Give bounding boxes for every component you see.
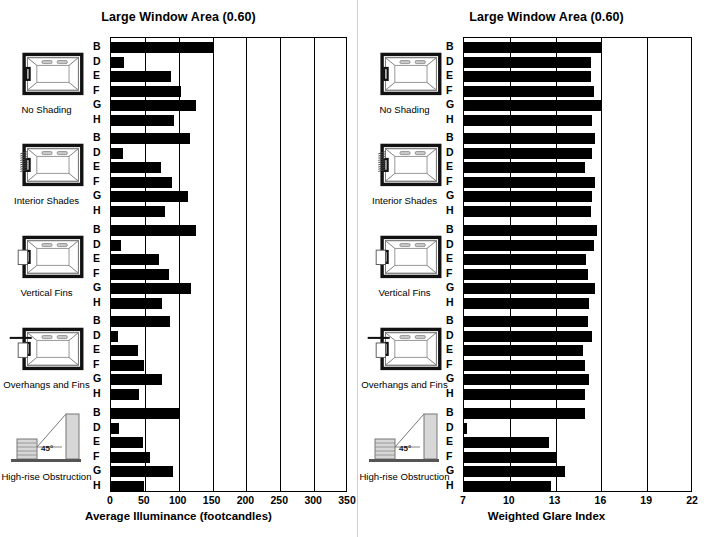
bar	[111, 437, 143, 448]
bar	[464, 298, 589, 309]
bar	[111, 466, 173, 477]
category-label: F	[446, 451, 452, 462]
bar	[111, 269, 169, 280]
bar	[464, 254, 586, 265]
bar	[464, 240, 594, 251]
bar	[464, 71, 591, 82]
category-label: G	[93, 190, 101, 201]
shading-group-room-interior-shades: Interior Shades	[0, 136, 93, 206]
shading-group-room-vertical-fins: Vertical Fins	[0, 228, 93, 298]
category-label: G	[93, 373, 101, 384]
bar	[111, 360, 144, 371]
shading-group-caption: Overhangs and Fins	[0, 379, 93, 390]
category-label: B	[93, 407, 101, 418]
category-label: H	[93, 114, 101, 125]
bar	[464, 191, 592, 202]
shading-group-caption: No Shading	[358, 104, 451, 115]
gridline	[314, 38, 315, 491]
bar	[111, 331, 118, 342]
x-axis-label-illuminance: Average Illuminance (footcandles)	[0, 510, 357, 522]
shading-group-room-overhangs-and-fins: Overhangs and Fins	[0, 320, 93, 390]
category-label: H	[93, 388, 101, 399]
x-tick-label: 350	[338, 494, 356, 506]
category-label: D	[446, 330, 454, 341]
x-tick-label: 0	[107, 494, 113, 506]
bar	[111, 71, 171, 82]
category-label: F	[93, 85, 99, 96]
bar	[464, 466, 565, 477]
bar	[464, 177, 595, 188]
svg-text:45°: 45°	[41, 444, 53, 453]
category-label: D	[446, 147, 454, 158]
category-label: E	[446, 344, 453, 355]
bar	[464, 133, 595, 144]
high-rise-obstruction-icon: 45°	[366, 412, 444, 469]
bar	[464, 408, 585, 419]
category-label: D	[446, 422, 454, 433]
category-label: E	[446, 253, 453, 264]
bar	[111, 177, 172, 188]
gridline	[280, 38, 281, 491]
category-label: E	[93, 70, 100, 81]
category-label: G	[446, 99, 454, 110]
gridline	[246, 38, 247, 491]
plot-area-illuminance	[110, 37, 347, 492]
category-label: H	[446, 297, 454, 308]
category-label: G	[93, 282, 101, 293]
x-axis-ticks-glare: 71013161922	[463, 494, 692, 510]
gridline	[213, 38, 214, 491]
category-label: H	[446, 205, 454, 216]
bar	[464, 86, 594, 97]
bar	[464, 481, 551, 492]
x-tick-label: 200	[237, 494, 255, 506]
plot-area-glare	[463, 37, 692, 492]
category-label: F	[446, 268, 452, 279]
bar	[464, 360, 585, 371]
bar	[464, 206, 591, 217]
x-tick-label: 300	[304, 494, 322, 506]
category-label: G	[446, 373, 454, 384]
x-tick-label: 10	[503, 494, 515, 506]
bar	[111, 389, 139, 400]
room-vertical-fins-icon	[366, 228, 444, 285]
shading-group-caption: Vertical Fins	[358, 287, 451, 298]
bar	[111, 345, 138, 356]
bar	[111, 42, 213, 53]
bars-glare	[464, 38, 691, 491]
chart-title-right: Large Window Area (0.60)	[368, 10, 715, 24]
shading-group-caption: High-rise Obstruction	[358, 471, 451, 482]
shading-group-caption: Overhangs and Fins	[358, 379, 451, 390]
category-label: F	[446, 85, 452, 96]
shading-group-high-rise-obstruction: 45° High-rise Obstruction	[358, 412, 451, 482]
bar	[111, 452, 150, 463]
category-label: D	[93, 147, 101, 158]
shading-group-room-vertical-fins: Vertical Fins	[358, 228, 451, 298]
shading-group-room-no-shading: No Shading	[0, 45, 93, 115]
category-label: F	[93, 268, 99, 279]
bar	[111, 86, 181, 97]
x-axis-ticks-illuminance: 050100150200250300350	[110, 494, 347, 510]
room-interior-shades-icon	[8, 136, 86, 193]
category-label: F	[93, 359, 99, 370]
shading-group-caption: Interior Shades	[358, 195, 451, 206]
panel-illuminance: Large Window Area (0.60) No Shading Inte…	[0, 0, 357, 537]
category-label: B	[93, 41, 101, 52]
x-tick-label: 13	[549, 494, 561, 506]
bar	[464, 374, 589, 385]
bar	[111, 423, 119, 434]
bar	[111, 225, 196, 236]
category-label: H	[446, 388, 454, 399]
bars-illuminance	[111, 38, 346, 491]
shading-group-caption: High-rise Obstruction	[0, 471, 93, 482]
gridline	[510, 38, 511, 491]
high-rise-obstruction-icon: 45°	[8, 412, 86, 469]
room-no-shading-icon	[8, 45, 86, 102]
bar	[111, 374, 162, 385]
svg-text:45°: 45°	[399, 444, 411, 453]
panel-glare: Large Window Area (0.60) No Shading Inte…	[358, 0, 715, 537]
shading-group-room-interior-shades: Interior Shades	[358, 136, 451, 206]
shading-group-room-no-shading: No Shading	[358, 45, 451, 115]
gridline	[179, 38, 180, 491]
chart-title-left: Large Window Area (0.60)	[0, 10, 357, 24]
x-tick-label: 50	[138, 494, 150, 506]
